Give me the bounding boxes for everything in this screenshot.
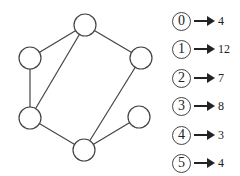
node-bottom — [73, 139, 95, 161]
edge-top-leftbottom — [30, 25, 85, 118]
legend-value: 3 — [218, 128, 224, 143]
legend-value: 7 — [218, 71, 224, 86]
legend-row-0: 0 4 — [172, 10, 224, 32]
legend-value: 8 — [218, 99, 224, 114]
legend-row-2: 2 7 — [172, 67, 224, 89]
node-right-top — [130, 47, 152, 69]
legend-node-circle: 3 — [172, 97, 191, 116]
legend-row-3: 3 8 — [172, 95, 224, 117]
node-top — [74, 14, 96, 36]
arrow-right-icon — [194, 130, 216, 140]
arrow-right-icon — [194, 101, 216, 111]
node-right-bottom — [128, 106, 150, 128]
legend-node-circle: 5 — [172, 154, 191, 173]
arrow-right-icon — [194, 44, 216, 54]
legend-node-circle: 1 — [172, 40, 191, 59]
arrow-right-icon — [194, 16, 216, 26]
legend-value: 4 — [218, 156, 224, 171]
edge-righttop-bottom — [84, 58, 141, 150]
legend-node-circle: 0 — [172, 12, 191, 31]
legend-node-circle: 4 — [172, 126, 191, 145]
legend-row-4: 4 3 — [172, 124, 224, 146]
node-left-bottom — [19, 107, 41, 129]
legend-row-5: 5 4 — [172, 152, 224, 174]
legend-row-1: 1 12 — [172, 38, 230, 60]
arrow-right-icon — [194, 158, 216, 168]
arrow-right-icon — [194, 73, 216, 83]
legend-value: 12 — [218, 42, 230, 57]
graph-diagram — [0, 0, 170, 176]
legend-value: 4 — [218, 14, 224, 29]
node-left-top — [19, 47, 41, 69]
legend-node-circle: 2 — [172, 69, 191, 88]
